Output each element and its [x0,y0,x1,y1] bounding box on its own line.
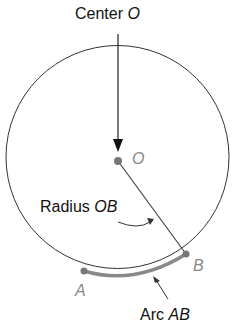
point-a [81,268,88,275]
arc-arrowhead [153,276,160,283]
circle-diagram: Center O O Radius OB A B Arc AB [0,0,237,332]
point-o [114,157,122,165]
point-o-label: O [132,150,144,168]
radius-label: Radius OB [40,198,117,216]
radius-ob [118,161,186,254]
point-b [183,251,190,258]
arc-pointer-arrow [156,280,168,299]
arrowhead [113,139,123,152]
point-b-label: B [193,257,204,275]
arc-ab [84,254,186,276]
radius-arrowhead [147,218,154,225]
radius-pointer-arrow [118,222,150,226]
center-label: Center O [75,5,140,23]
circle-figure [0,0,237,332]
arc-label: Arc AB [140,306,190,324]
point-a-label: A [75,282,86,300]
